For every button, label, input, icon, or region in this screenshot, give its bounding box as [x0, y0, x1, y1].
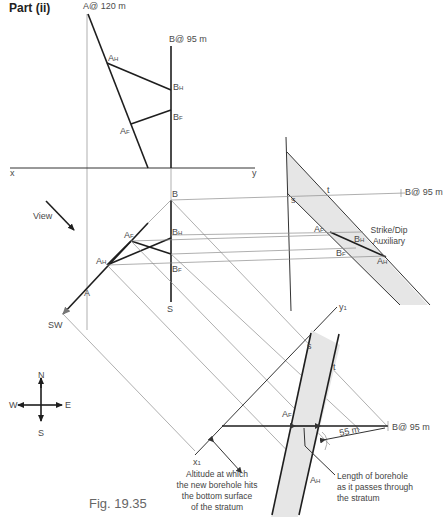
part-title: Part (ii): [9, 1, 50, 15]
sec-label-af: AF: [282, 409, 292, 419]
sec-label-ah: AH: [310, 475, 320, 485]
altitude-note-1: Altitude at which: [186, 469, 248, 479]
compass-rose: N S W E: [9, 370, 71, 438]
length-note-3: the stratum: [337, 493, 380, 503]
aux-label-b95: B@ 95 m: [405, 187, 443, 197]
plan-label-b: B: [172, 189, 178, 199]
length-note-2: as it passes through: [337, 482, 413, 492]
annotations: Altitude at which the new borehole hits …: [89, 469, 413, 512]
figure-caption: Fig. 19.35: [89, 496, 147, 511]
label-bh: BH: [173, 82, 183, 92]
plan-label-bf: BF: [172, 264, 182, 274]
geology-projection-diagram: Part (ii) x y A@ 120 m B@ 95 m AH BH AF …: [0, 0, 448, 517]
plan-label-af: AF: [124, 230, 134, 240]
plan-label-a: A: [84, 288, 90, 298]
aux-label-t: t: [327, 185, 330, 195]
sec-label-b95: B@ 95 m: [392, 422, 430, 432]
aux-label-s: s: [291, 195, 296, 205]
diag-proj-a: [63, 314, 195, 451]
plan-label-s: S: [167, 304, 173, 314]
plan-ah-af: [107, 241, 131, 265]
sec-label-t: t: [333, 362, 336, 372]
compass-w: W: [9, 400, 18, 410]
proj-af-aux: [131, 235, 330, 241]
x-label: x: [10, 168, 15, 178]
x1-label: x1: [193, 457, 202, 467]
plan-label-ah: AH: [96, 256, 106, 266]
altitude-note-4: of the stratum: [191, 502, 243, 512]
strike-dip-auxiliary: B@ 95 m s t AF BH BF AH Strike/Dip Auxil…: [107, 137, 443, 311]
label-a-120: A@ 120 m: [83, 1, 126, 11]
altitude-note-3: the bottom surface: [182, 491, 253, 501]
plan-label-bh: BH: [172, 227, 182, 237]
sec-label-s: s: [307, 341, 312, 351]
y1-label: y1: [339, 302, 348, 312]
label-bf: BF: [173, 112, 183, 122]
line-af-bf: [131, 110, 171, 124]
view-label: View: [33, 211, 53, 221]
diag-proj-ah: [107, 265, 306, 470]
aux-bottom-plane: [287, 193, 400, 305]
label-b-95: B@ 95 m: [169, 34, 207, 44]
elevation-view: x y A@ 120 m B@ 95 m AH BH AF BF: [10, 1, 257, 330]
compass-n: N: [38, 370, 45, 380]
borehole-a-elevation: [88, 14, 148, 168]
altitude-note-2: the new borehole hits: [177, 480, 258, 490]
b-to-a-thin: [148, 200, 171, 223]
altitude-dim: [212, 440, 240, 471]
label-ah: AH: [108, 53, 118, 63]
plan-view: View B BH BF AF AH A S SW: [33, 168, 182, 330]
compass-e: E: [65, 400, 71, 410]
compass-s: S: [38, 428, 44, 438]
plan-label-sw: SW: [48, 320, 63, 330]
sw-line: [63, 223, 148, 314]
aux-top-plane: [287, 152, 430, 305]
length-note-1: Length of borehole: [337, 471, 408, 481]
aux-title-2: Auxiliary: [373, 236, 406, 246]
label-af: AF: [120, 126, 130, 136]
y-label: y: [252, 168, 257, 178]
aux-title-1: Strike/Dip: [371, 225, 408, 235]
proj-bf-aux: [171, 248, 356, 254]
proj-ah-aux: [107, 256, 386, 265]
